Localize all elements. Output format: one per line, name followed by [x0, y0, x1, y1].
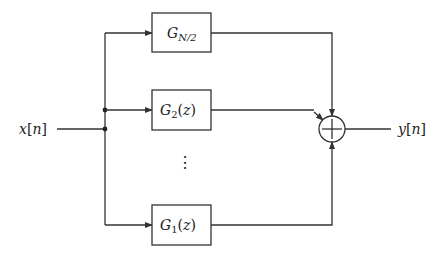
block-g-2: G2(z): [152, 90, 211, 130]
svg-text:G1(z): G1(z): [160, 217, 196, 235]
filter-bank-diagram: x[n] GN/2 G2(z) G1(z) ⋮: [0, 0, 439, 260]
output-path-g1: [211, 142, 332, 225]
block-g-1: G1(z): [152, 205, 211, 245]
summing-junction: [319, 116, 345, 142]
output-path-gn2: [211, 33, 332, 116]
ellipsis: ⋮: [177, 153, 193, 172]
block-g-n2: GN/2: [152, 13, 211, 52]
block-g-n2-symbol: G: [167, 25, 178, 41]
block-g-n2-subscript: N/2: [177, 32, 196, 43]
junction-dot-input: [103, 127, 108, 132]
svg-text:G2(z): G2(z): [160, 102, 196, 120]
input-label: x[n]: [19, 121, 47, 137]
output-arrow-g2: [314, 112, 323, 120]
output-label: y[n]: [397, 121, 426, 137]
